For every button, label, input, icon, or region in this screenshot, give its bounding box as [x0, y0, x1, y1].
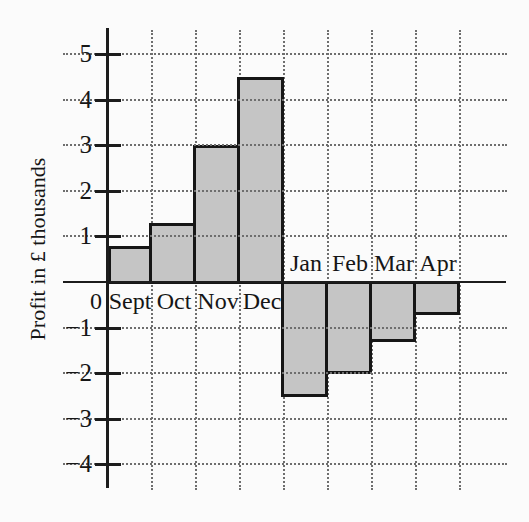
y-tick-mark [95, 190, 121, 193]
origin-label: 0 [74, 288, 102, 315]
h-gridline [63, 235, 507, 237]
y-tick-mark [95, 144, 121, 147]
h-gridline [63, 144, 507, 146]
y-tick-label: 5 [36, 39, 92, 69]
y-tick-label: −1 [36, 313, 92, 343]
x-category-label-sept: Sept [108, 288, 152, 315]
h-gridline [63, 463, 507, 465]
x-category-label-apr: Apr [416, 250, 460, 277]
bar-apr [413, 281, 460, 315]
y-tick-mark [95, 53, 121, 56]
h-gridline [63, 190, 507, 192]
x-category-label-nov: Nov [196, 288, 240, 315]
x-category-label-jan: Jan [284, 250, 328, 277]
h-gridline [63, 53, 507, 55]
x-category-label-oct: Oct [152, 288, 196, 315]
y-tick-mark [95, 99, 121, 102]
x-category-label-dec: Dec [240, 288, 284, 315]
bar-dec [237, 77, 284, 284]
bar-sept [108, 246, 152, 284]
y-tick-label: −2 [36, 358, 92, 388]
y-tick-label: 4 [36, 85, 92, 115]
plot-area: 54321−1−2−3−40SeptOctNovDecJanFebMarApr [0, 0, 529, 522]
y-tick-label: 1 [36, 221, 92, 251]
y-tick-mark [95, 463, 121, 466]
bar-jan [281, 281, 328, 397]
y-tick-label: 2 [36, 176, 92, 206]
y-tick-label: 3 [36, 130, 92, 160]
y-tick-mark [95, 327, 121, 330]
h-gridline [63, 99, 507, 101]
y-tick-label: −4 [36, 449, 92, 479]
bar-mar [369, 281, 416, 342]
h-gridline [63, 418, 507, 420]
x-axis-line [63, 281, 506, 283]
y-tick-mark [95, 418, 121, 421]
bar-nov [193, 145, 240, 284]
h-gridline [63, 372, 507, 374]
x-category-label-feb: Feb [328, 250, 372, 277]
y-tick-label: −3 [36, 404, 92, 434]
y-tick-mark [95, 235, 121, 238]
y-tick-mark [95, 372, 121, 375]
x-category-label-mar: Mar [372, 250, 416, 277]
profit-bar-chart-figure: Profit in £ thousands 54321−1−2−3−40Sept… [0, 0, 529, 522]
h-gridline [63, 327, 507, 329]
bar-oct [149, 223, 196, 284]
